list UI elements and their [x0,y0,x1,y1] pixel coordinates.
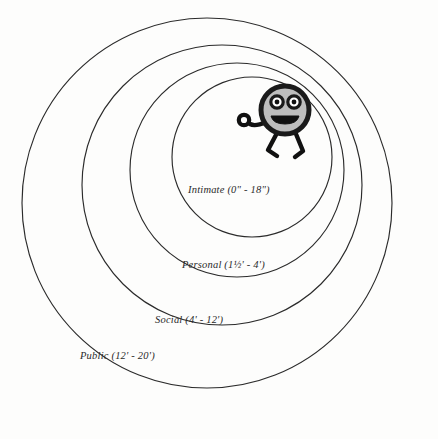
pupil-right-icon [292,100,297,105]
cartoon-person-figure [239,86,309,157]
zone-label-intimate: Intimate (0" - 18") [188,185,270,196]
zone-label-social: Social (4' - 12') [155,315,223,326]
zone-label-personal: Personal (1½' - 4') [182,260,265,271]
pupil-left-icon [275,100,280,105]
leg-right-icon [295,134,303,157]
zone-circle-public [22,18,392,388]
leg-left-icon [268,133,277,156]
proxemics-diagram: Intimate (0" - 18") Personal (1½' - 4') … [0,0,438,439]
zone-label-public: Public (12' - 20') [80,351,155,362]
proxemics-circles [0,0,438,439]
head-icon [261,86,309,134]
hand-left-icon [239,115,249,125]
zone-circle-personal [130,63,344,277]
